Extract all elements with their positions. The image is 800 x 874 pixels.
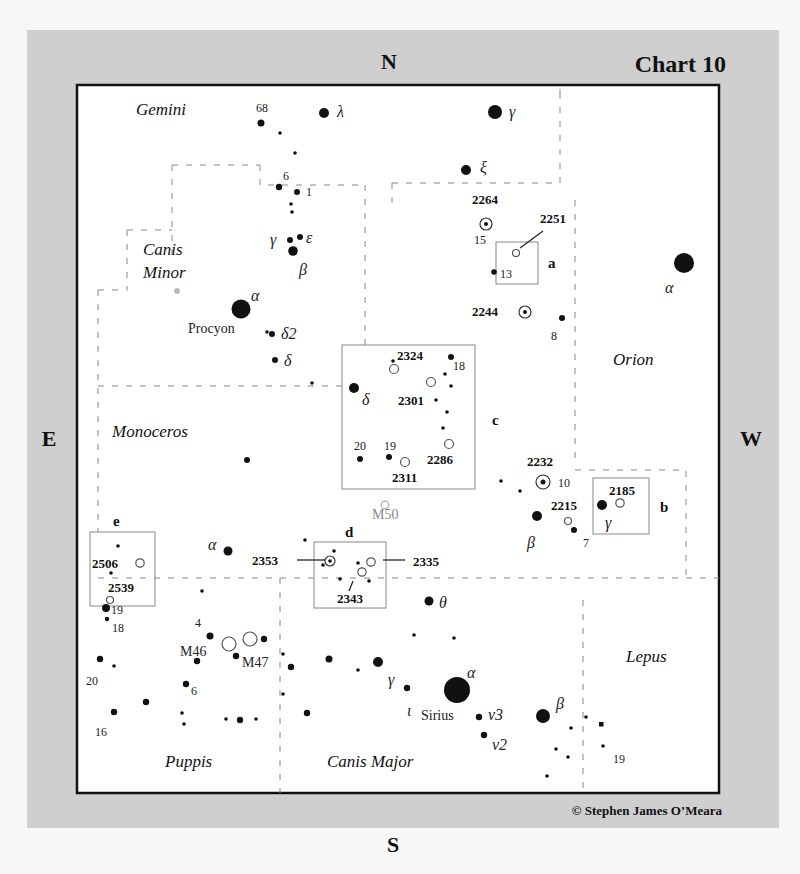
star-20-pup[interactable] — [97, 656, 103, 662]
star-6-pup[interactable] — [183, 681, 189, 687]
label-sirius: Sirius — [421, 708, 454, 723]
finder-box-b-label: b — [660, 499, 668, 515]
star-19-cma[interactable] — [601, 744, 605, 748]
svg-text:δ: δ — [284, 352, 292, 369]
star-delta-mon[interactable] — [349, 383, 359, 393]
label-ngc-2232: 2232 — [527, 454, 553, 469]
svg-text:λ: λ — [336, 103, 344, 120]
label-m46: M46 — [180, 644, 206, 659]
star-18-pup[interactable] — [105, 617, 109, 621]
svg-text:ι: ι — [407, 702, 411, 719]
star-iota-cma[interactable] — [404, 685, 410, 691]
svg-text:γ: γ — [605, 514, 612, 532]
constellation-canis-major: Canis Major — [327, 752, 414, 771]
svg-text:18: 18 — [453, 359, 465, 373]
label-m50: M50 — [372, 507, 398, 522]
star-theta-cma[interactable] — [425, 597, 434, 606]
label-ngc-2215: 2215 — [551, 498, 578, 513]
star-gamma-gem[interactable] — [488, 105, 502, 119]
star-alpha-mon[interactable] — [224, 547, 233, 556]
finder-box-d-label: d — [345, 524, 354, 540]
star-xi-gem[interactable] — [461, 165, 471, 175]
label-ngc-2506: 2506 — [92, 556, 119, 571]
svg-text:γ: γ — [388, 671, 395, 689]
svg-text:20: 20 — [354, 439, 366, 453]
star-lambda-gem[interactable] — [319, 108, 329, 118]
label-ngc-2264: 2264 — [472, 192, 499, 207]
constellation-gemini: Gemini — [136, 100, 186, 119]
star-gamma-mon[interactable] — [597, 500, 607, 510]
star-betelgeuse[interactable] — [674, 253, 694, 273]
compass-north: N — [381, 49, 397, 74]
svg-text:β: β — [526, 534, 535, 552]
svg-text:β: β — [555, 695, 564, 713]
star-4-pup[interactable] — [207, 633, 214, 640]
star-1-cmi[interactable] — [294, 189, 300, 195]
svg-text:7: 7 — [583, 536, 589, 550]
constellation-canis-minor-1: Canis — [143, 240, 183, 259]
star-beta-cma[interactable] — [536, 709, 550, 723]
svg-text:10: 10 — [558, 476, 570, 490]
constellation-puppis: Puppis — [164, 752, 213, 771]
star-delta-cmi[interactable] — [272, 357, 278, 363]
svg-text:α: α — [467, 664, 476, 681]
label-ngc-2286: 2286 — [427, 452, 454, 467]
constellation-lepus: Lepus — [625, 647, 667, 666]
finder-box-a-label: a — [548, 255, 556, 271]
svg-text:δ2: δ2 — [281, 325, 296, 342]
star-nu2-cma[interactable] — [481, 732, 487, 738]
sky-chart: N S E W Chart 10 © Stephen James O’Meara… — [0, 0, 800, 874]
star-16-pup[interactable] — [111, 709, 117, 715]
svg-text:δ: δ — [362, 391, 370, 408]
star-6-cmi[interactable] — [276, 184, 282, 190]
label-ngc-2185: 2185 — [609, 483, 636, 498]
star-nu3-cma[interactable] — [476, 714, 482, 720]
star-gamma-cma[interactable] — [373, 657, 383, 667]
nebula-ngc-2244[interactable] — [523, 310, 527, 314]
constellation-orion: Orion — [613, 350, 654, 369]
finder-box-e-label: e — [113, 513, 120, 529]
star-gamma-cmi[interactable] — [287, 237, 293, 243]
label-ngc-2335: 2335 — [413, 554, 440, 569]
star-delta2-cmi[interactable] — [269, 331, 275, 337]
star-20-mon[interactable] — [357, 456, 363, 462]
constellation-canis-minor-2: Minor — [142, 263, 186, 282]
star-beta-cmi[interactable] — [288, 246, 298, 256]
star-epsilon-cmi[interactable] — [297, 234, 303, 240]
label-ngc-2244: 2244 — [472, 304, 499, 319]
label-ngc-2301: 2301 — [398, 393, 424, 408]
svg-text:γ: γ — [270, 231, 277, 249]
compass-south: S — [387, 832, 399, 857]
svg-text:6: 6 — [191, 684, 197, 698]
star-19-mon[interactable] — [386, 454, 392, 460]
label-m47: M47 — [242, 655, 268, 670]
nebula-ngc-2232[interactable] — [541, 480, 546, 485]
nebula-ngc-2353[interactable] — [328, 559, 332, 563]
constellation-monoceros: Monoceros — [111, 422, 188, 441]
star-7-mon[interactable] — [571, 527, 577, 533]
svg-text:ν2: ν2 — [492, 736, 507, 753]
svg-text:α: α — [665, 279, 674, 296]
svg-text:13: 13 — [500, 267, 512, 281]
nebula-ngc-2264[interactable] — [484, 222, 488, 226]
svg-text:α: α — [208, 536, 217, 553]
svg-text:1: 1 — [306, 185, 312, 199]
svg-text:19: 19 — [613, 752, 625, 766]
svg-text:19: 19 — [111, 603, 123, 617]
svg-text:18: 18 — [112, 621, 124, 635]
svg-text:20: 20 — [86, 674, 98, 688]
star-beta-mon[interactable] — [532, 511, 542, 521]
star-8-mon[interactable] — [559, 315, 565, 321]
svg-text:16: 16 — [95, 725, 107, 739]
svg-text:γ: γ — [509, 103, 516, 121]
star-68-gem[interactable] — [258, 120, 265, 127]
svg-text:68: 68 — [256, 101, 268, 115]
star-19-pup[interactable] — [102, 604, 110, 612]
star-procyon[interactable] — [232, 300, 251, 319]
chart-title: Chart 10 — [635, 51, 726, 77]
label-ngc-2324: 2324 — [397, 348, 424, 363]
svg-text:θ: θ — [439, 594, 447, 611]
svg-text:ν3: ν3 — [488, 706, 503, 723]
star-13-mon[interactable] — [491, 269, 497, 275]
compass-west: W — [740, 426, 762, 451]
